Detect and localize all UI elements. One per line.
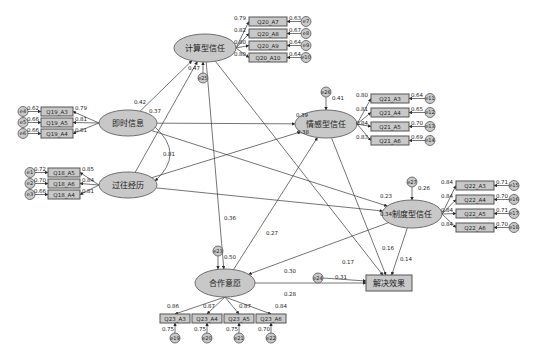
error-label: e3 [27, 191, 33, 197]
indicator-label: Q18_A5 [53, 170, 75, 177]
error-coef: 0.72 [34, 166, 46, 172]
indicator-label: Q21_A5 [379, 124, 401, 131]
indicator-label: Q21_A3 [379, 96, 401, 103]
loading-coef: 0.81 [82, 188, 94, 194]
structural-path [234, 137, 318, 269]
loading-coef: 0.87 [203, 303, 216, 309]
error-coef: 0.67 [289, 27, 302, 33]
error-coef: 0.75 [194, 326, 207, 332]
loading-coef: 0.84 [275, 303, 288, 309]
structural-path [152, 131, 388, 207]
loading-coef: 0.79 [234, 15, 247, 21]
error-coef: 0.62 [27, 105, 39, 111]
loading-path [73, 123, 99, 124]
outcome-error-label: e24 [313, 275, 322, 281]
loading-coef: 0.84 [441, 179, 454, 185]
structural-error-coef: 0.50 [224, 254, 237, 260]
error-coef: 0.66 [34, 188, 47, 194]
error-label: e22 [266, 335, 275, 341]
error-coef: 0.65 [411, 106, 424, 112]
latent-label: 过往经历 [112, 180, 144, 190]
path-coef: 0.37 [149, 108, 162, 114]
error-label: e17 [509, 210, 518, 216]
error-label: e5 [20, 119, 26, 125]
indicator-label: Q23_A3 [164, 316, 186, 323]
loading-coef: 0.86 [167, 303, 180, 309]
indicator-label: Q20_A10 [256, 55, 281, 62]
latent-label: 计算型信任 [185, 43, 225, 53]
indicator-label: Q21_A6 [379, 138, 401, 145]
path-coef: 0.36 [224, 215, 237, 221]
outcome-error-coef: 0.31 [335, 274, 347, 280]
structural-path [392, 228, 408, 275]
loading-coef: 0.81 [75, 116, 87, 122]
path-coef: 0.38 [297, 129, 310, 135]
loading-coef: 0.80 [234, 51, 247, 57]
loading-path [442, 214, 456, 215]
loading-coef: 0.82 [234, 27, 246, 33]
error-coef: 0.66 [27, 127, 40, 133]
error-coef: 0.75 [162, 326, 175, 332]
path-coef: 0.16 [382, 245, 395, 251]
indicator-label: Q23_A5 [228, 316, 250, 323]
path-coef: 0.27 [266, 230, 279, 236]
indicator-label: Q22_A4 [464, 197, 486, 204]
loading-coef: 0.87 [239, 303, 252, 309]
error-label: e18 [509, 224, 518, 230]
loading-coef: 0.80 [234, 39, 247, 45]
error-coef: 0.63 [289, 15, 302, 21]
indicator-label: Q19_A4 [46, 131, 68, 138]
error-label: e6 [20, 130, 26, 136]
loading-coef: 0.83 [356, 134, 369, 140]
outcome-label: 解决效果 [373, 278, 405, 288]
error-label: e13 [425, 123, 434, 129]
error-label: e1 [27, 169, 33, 175]
path-coef: 0.34 [380, 211, 393, 217]
error-label: e20 [202, 335, 211, 341]
error-coef: 0.75 [226, 326, 239, 332]
loading-coef: 0.84 [356, 120, 369, 126]
structural-path [206, 62, 224, 269]
loading-coef: 0.85 [82, 166, 95, 172]
loading-coef: 0.81 [356, 106, 368, 112]
error-label: e16 [509, 196, 518, 202]
error-coef: 0.70 [258, 326, 271, 332]
loading-coef: 0.84 [82, 177, 95, 183]
error-coef: 0.64 [411, 92, 424, 98]
error-label: e2 [27, 180, 33, 186]
loading-coef: 0.84 [441, 221, 454, 227]
path-coef: 0.42 [134, 99, 146, 105]
error-coef: 0.70 [34, 177, 47, 183]
indicator-label: Q21_A4 [379, 110, 401, 117]
error-label: e10 [301, 54, 310, 60]
structural-error-label: e27 [407, 179, 416, 185]
indicator-label: Q22_A6 [464, 225, 486, 232]
loading-coef: 0.81 [75, 127, 87, 133]
structural-error-label: e25 [198, 75, 207, 81]
loading-coef: 0.84 [441, 207, 454, 213]
indicator-label: Q20_A8 [257, 31, 279, 38]
path-coef: 0.23 [380, 193, 393, 199]
loading-coef: 0.84 [441, 193, 454, 199]
loading-coef: 0.80 [356, 92, 369, 98]
path-coef: 0.39 [296, 112, 309, 118]
indicator-label: Q23_A4 [196, 316, 218, 323]
error-coef: 0.64 [289, 51, 302, 57]
indicator-label: Q23_A6 [260, 316, 282, 323]
indicator-label: Q22_A3 [464, 183, 486, 190]
indicator-label: Q19_A5 [46, 120, 68, 127]
indicator-label: Q19_A3 [46, 109, 68, 116]
path-coef: 0.14 [400, 256, 413, 262]
error-coef: 0.70 [496, 193, 509, 199]
sem-diagram: Q20_A70.79e70.63Q20_A80.82e80.67Q20_A90.… [0, 0, 555, 362]
indicator-label: Q18_A6 [53, 181, 75, 188]
indicator-label: Q22_A5 [464, 211, 486, 218]
structural-path [140, 61, 192, 111]
error-coef: 0.70 [496, 221, 509, 227]
error-coef: 0.71 [496, 207, 508, 213]
error-coef: 0.71 [496, 179, 508, 185]
covariance-coef: 0.81 [163, 151, 175, 157]
path-coef: 0.28 [284, 291, 297, 297]
latent-label: 合作意愿 [209, 278, 241, 288]
structural-path [156, 188, 382, 211]
